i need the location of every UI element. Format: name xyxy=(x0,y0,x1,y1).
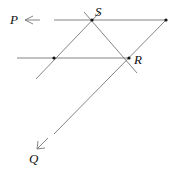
point-r xyxy=(127,56,130,59)
arrow-left-icon xyxy=(25,16,40,24)
label-q: Q xyxy=(29,151,39,166)
label-s: S xyxy=(95,4,102,19)
label-p: P xyxy=(9,12,18,27)
right-diagonal-line xyxy=(54,20,166,134)
point-s xyxy=(90,18,93,21)
label-r: R xyxy=(133,52,142,67)
point-top-right xyxy=(164,18,167,21)
arrow-down-left-icon xyxy=(37,138,48,149)
left-diagonal-line xyxy=(36,12,100,79)
geometry-diagram: P S R Q xyxy=(0,0,171,175)
point-mid-left xyxy=(52,56,55,59)
